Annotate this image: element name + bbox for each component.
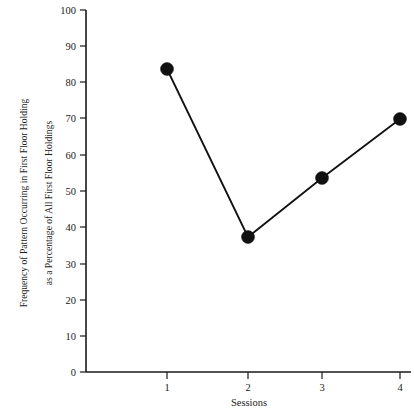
x-axis-title: Sessions — [231, 397, 267, 408]
chart-canvas: 100 90 80 70 60 50 40 30 20 10 0 1 2 3 4 — [0, 0, 414, 408]
y-tick-label-50: 50 — [66, 186, 77, 197]
chart-background — [0, 0, 414, 408]
y-tick-label-40: 40 — [66, 222, 77, 233]
x-tick-label-1: 1 — [164, 382, 169, 393]
data-point-session-4[interactable] — [394, 113, 407, 126]
data-point-session-2[interactable] — [242, 231, 255, 244]
y-tick-label-60: 60 — [66, 150, 77, 161]
y-tick-label-70: 70 — [66, 113, 77, 124]
y-tick-label-80: 80 — [66, 77, 77, 88]
x-tick-label-3: 3 — [319, 382, 324, 393]
data-point-session-1[interactable] — [161, 63, 174, 76]
y-tick-label-90: 90 — [66, 41, 77, 52]
y-tick-label-10: 10 — [66, 331, 77, 342]
y-tick-label-30: 30 — [66, 259, 77, 270]
data-point-session-3[interactable] — [316, 172, 329, 185]
line-chart: 100 90 80 70 60 50 40 30 20 10 0 1 2 3 4 — [0, 0, 414, 408]
y-tick-label-0: 0 — [71, 367, 76, 378]
x-tick-label-4: 4 — [397, 382, 403, 393]
y-tick-label-20: 20 — [66, 295, 77, 306]
y-tick-label-100: 100 — [60, 5, 76, 16]
x-tick-label-2: 2 — [245, 382, 250, 393]
